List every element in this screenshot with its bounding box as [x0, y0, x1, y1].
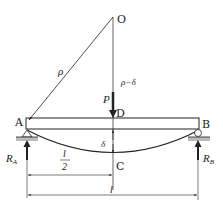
label-half-span-num: l [63, 148, 66, 159]
label-span: l [110, 184, 113, 195]
beam-deflection-diagram: O ρ ρ−δ P D A B δ C RA RB l 2 l [0, 0, 223, 215]
radius-line [29, 17, 113, 120]
label-a: A [14, 116, 24, 129]
reaction-arrowhead-a [24, 140, 31, 147]
label-rho-minus-delta: ρ−δ [120, 77, 136, 87]
label-p: P [102, 93, 110, 105]
label-delta: δ [101, 139, 106, 149]
beam [26, 118, 199, 129]
label-half-span-den: 2 [62, 161, 67, 172]
label-rho: ρ [57, 65, 63, 77]
label-ra: RA [5, 152, 18, 166]
pin-support-a [16, 130, 38, 141]
roller-support-b [188, 130, 210, 142]
label-o: O [117, 13, 126, 26]
label-c: C [116, 160, 124, 173]
label-rb: RB [202, 152, 215, 166]
label-d: D [116, 107, 125, 120]
label-b: B [202, 118, 210, 131]
reaction-arrowhead-b [195, 140, 202, 147]
